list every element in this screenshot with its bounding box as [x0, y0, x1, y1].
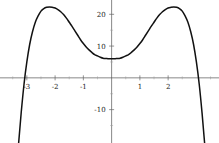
y-axis-tick-label: 10 — [97, 43, 106, 51]
graph-figure: -3-2-1122010-10 — [0, 0, 219, 143]
plot-canvas: -3-2-1122010-10 — [0, 0, 219, 143]
x-axis-tick-label: 1 — [138, 83, 142, 91]
x-axis-tick-label: -2 — [52, 83, 59, 91]
y-axis-tick-label: 20 — [97, 11, 106, 19]
x-axis-tick-label: 2 — [166, 83, 170, 91]
x-axis-tick-label: -1 — [80, 83, 87, 91]
y-axis-tick-label: -10 — [94, 106, 105, 114]
